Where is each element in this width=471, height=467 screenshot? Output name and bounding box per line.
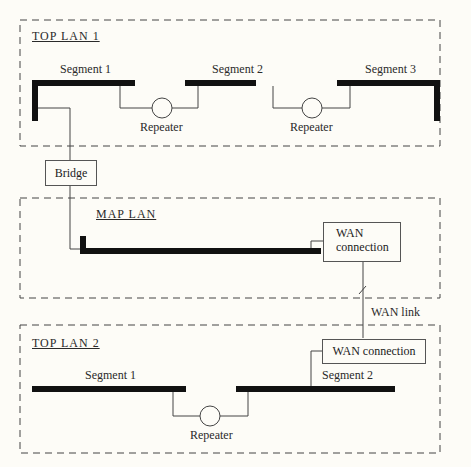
top-lan-1-segment-1-label: Segment 1 bbox=[60, 62, 111, 77]
top-lan-1-segment-3-label: Segment 3 bbox=[365, 62, 416, 77]
wan-connection-label: WAN connection bbox=[333, 344, 416, 358]
top-lan-2-wan-connection-box: WAN connection bbox=[322, 339, 426, 364]
bridge-label: Bridge bbox=[55, 166, 88, 180]
top-lan-2-segment-1-label: Segment 1 bbox=[85, 368, 136, 383]
top-lan-1-repeater-1-label: Repeater bbox=[140, 120, 183, 135]
wan-connection-line-2: connection bbox=[336, 240, 400, 254]
top-lan-2-repeater-label: Repeater bbox=[190, 428, 233, 443]
top-lan-1-repeater-2-label: Repeater bbox=[290, 120, 333, 135]
top-lan-1-title: TOP LAN 1 bbox=[32, 29, 100, 44]
top-lan-2-segment-2-label: Segment 2 bbox=[322, 368, 373, 383]
top-lan-2-title: TOP LAN 2 bbox=[32, 336, 100, 351]
bridge-box: Bridge bbox=[45, 160, 97, 186]
map-lan-title: MAP LAN bbox=[96, 207, 156, 222]
wan-link-label: WAN link bbox=[371, 305, 420, 320]
map-lan-wan-connection-box: WAN connection bbox=[323, 222, 401, 262]
top-lan-1-segment-2-label: Segment 2 bbox=[212, 62, 263, 77]
wan-connection-line-1: WAN bbox=[336, 226, 400, 240]
